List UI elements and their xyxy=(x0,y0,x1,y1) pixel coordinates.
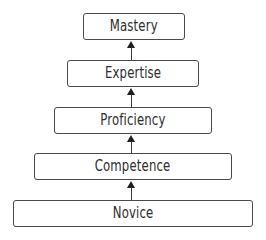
arrow-shaft xyxy=(131,47,132,60)
arrow-shaft xyxy=(131,187,132,200)
arrow-shaft xyxy=(131,94,132,107)
arrow-up-icon xyxy=(126,88,136,107)
arrow-up-icon xyxy=(126,135,136,153)
level-mastery: Mastery xyxy=(83,13,185,40)
level-label: Expertise xyxy=(105,66,161,81)
level-expertise: Expertise xyxy=(67,60,199,87)
level-competence: Competence xyxy=(34,153,232,180)
level-label: Novice xyxy=(113,206,154,221)
level-label: Proficiency xyxy=(100,113,165,128)
level-label: Mastery xyxy=(110,19,158,34)
arrow-up-icon xyxy=(126,41,136,60)
arrow-shaft xyxy=(131,141,132,153)
level-proficiency: Proficiency xyxy=(54,107,212,134)
arrow-up-icon xyxy=(126,181,136,200)
level-novice: Novice xyxy=(13,200,253,227)
level-label: Competence xyxy=(95,159,171,174)
